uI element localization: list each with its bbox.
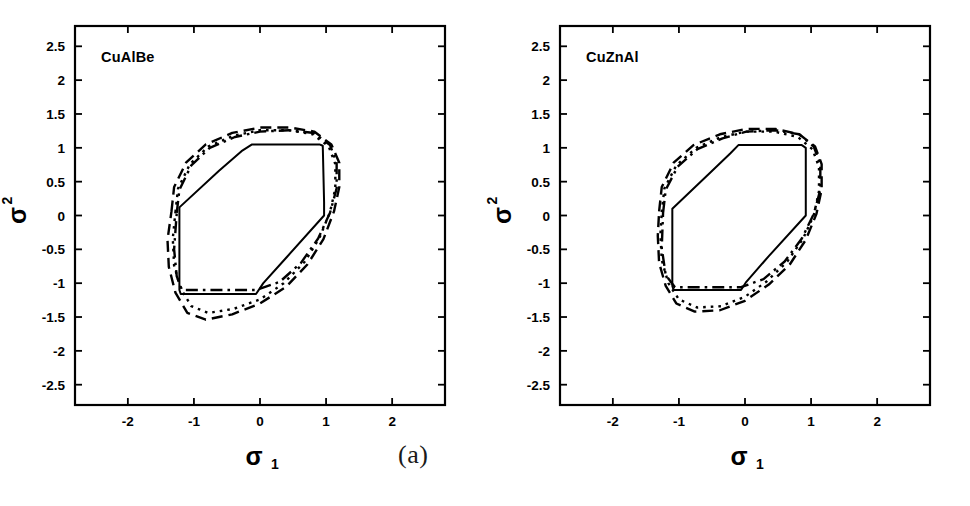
curve-dashdot-yield-surface — [174, 130, 337, 290]
y-tick-label: -1 — [538, 276, 550, 291]
y-tick-label: 2.5 — [531, 39, 550, 54]
x-axis-title: σ — [730, 442, 747, 470]
material-label: CuAlBe — [101, 49, 155, 65]
x-tick-label: -2 — [122, 414, 134, 429]
y-tick-label: -2 — [53, 344, 65, 359]
y-tick-label: 2 — [542, 73, 550, 88]
curve-dotted-yield-surface — [660, 132, 819, 308]
y-axis-title: σ — [3, 207, 31, 224]
plot-a: -2-1012-2.5-2-1.5-1-0.500.511.522.5CuAlB… — [0, 0, 485, 506]
material-label: CuZnAl — [586, 49, 639, 65]
panel-a: -2-1012-2.5-2-1.5-1-0.500.511.522.5CuAlB… — [0, 0, 485, 506]
x-tick-label: -2 — [607, 414, 619, 429]
y-tick-label: -2 — [538, 344, 550, 359]
y-tick-label: -1 — [53, 276, 65, 291]
x-axis-subscript: 1 — [756, 456, 764, 472]
x-tick-label: 0 — [741, 414, 749, 429]
y-tick-label: 1.5 — [46, 107, 65, 122]
x-tick-label: 1 — [322, 414, 330, 429]
x-tick-label: 2 — [873, 414, 881, 429]
y-tick-label: 0.5 — [46, 175, 65, 190]
y-axis-title-group: σ2 — [485, 197, 516, 225]
x-tick-label: -1 — [673, 414, 685, 429]
y-axis-title-group: σ2 — [0, 197, 31, 225]
y-tick-label: 2 — [57, 73, 65, 88]
curve-solid-yield-surface — [179, 144, 324, 294]
curve-dashdot-yield-surface — [662, 130, 821, 287]
y-axis-title: σ — [488, 207, 516, 224]
curve-dotted-yield-surface — [173, 130, 336, 313]
y-tick-label: -2.5 — [42, 378, 66, 393]
x-axis-title: σ — [245, 442, 262, 470]
x-tick-label: 0 — [256, 414, 264, 429]
curve-dashed-yield-surface — [658, 129, 822, 312]
y-tick-label: -0.5 — [527, 242, 551, 257]
y-axis-subscript: 2 — [0, 197, 15, 205]
y-tick-label: 2.5 — [46, 39, 65, 54]
y-tick-label: 0 — [57, 209, 65, 224]
y-tick-label: 1 — [542, 141, 550, 156]
x-tick-label: -1 — [188, 414, 200, 429]
y-axis-subscript: 2 — [485, 197, 500, 205]
y-tick-label: 1.5 — [531, 107, 550, 122]
plot-b: -2-1012-2.5-2-1.5-1-0.500.511.522.5CuZnA… — [485, 0, 970, 506]
y-tick-label: 0 — [542, 209, 550, 224]
y-tick-label: -1.5 — [42, 310, 66, 325]
x-tick-label: 1 — [807, 414, 815, 429]
y-tick-label: 0.5 — [531, 175, 550, 190]
plot-frame — [75, 26, 445, 405]
x-tick-label: 2 — [388, 414, 396, 429]
curve-solid-yield-surface — [672, 145, 805, 290]
y-tick-label: 1 — [57, 141, 65, 156]
panel-a-caption: (a) — [398, 440, 428, 470]
x-axis-subscript: 1 — [271, 456, 279, 472]
figure-container: -2-1012-2.5-2-1.5-1-0.500.511.522.5CuAlB… — [0, 0, 970, 506]
y-tick-label: -2.5 — [527, 378, 551, 393]
panel-b: -2-1012-2.5-2-1.5-1-0.500.511.522.5CuZnA… — [485, 0, 970, 506]
plot-frame — [560, 26, 930, 405]
y-tick-label: -1.5 — [527, 310, 551, 325]
y-tick-label: -0.5 — [42, 242, 66, 257]
